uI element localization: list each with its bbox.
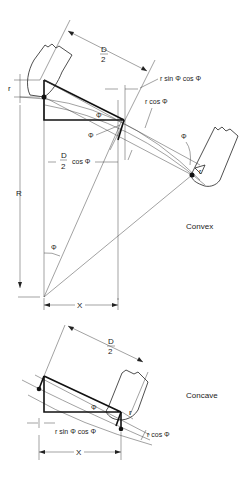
x-label: X (77, 301, 83, 310)
phi-right-label: Φ (181, 133, 187, 140)
phi-left-label: Φ (88, 132, 94, 139)
d2-extension-left (40, 20, 70, 80)
right-contact-point (190, 173, 195, 178)
d-cos-suffix-label: cos Φ (72, 158, 91, 165)
concave-r-label: r (129, 408, 132, 417)
concave-phi-label: Φ (91, 404, 97, 411)
concave-title: Concave (186, 391, 218, 400)
concave-left-contact (37, 387, 42, 392)
r-top-label: r (8, 84, 11, 93)
concave-two-label: 2 (108, 347, 113, 356)
left-cutter-outline (27, 44, 72, 97)
concave-arc-inner (28, 395, 152, 445)
concave-r-sin-cos-label: r sin Φ cos Φ (55, 428, 97, 435)
angled-radius-line (44, 118, 123, 297)
concave-d-label: D (108, 337, 114, 346)
convex-title: Convex (186, 222, 213, 231)
concave-diagram: D 2 Φ r r sin Φ cos Φ r cos Φ X Concave (22, 325, 218, 460)
d-cos-den-label: 2 (61, 162, 66, 171)
concave-triangle (44, 376, 121, 412)
concave-r-cos-label: r cos Φ (147, 431, 170, 438)
right-cutter-outline (191, 127, 238, 186)
d2-dimension-line (68, 31, 147, 71)
radius-label: R (16, 189, 22, 198)
concave-right-contact (119, 427, 124, 432)
r-cos-label: r cos Φ (145, 98, 168, 105)
left-contact-point (42, 95, 47, 100)
phi-triangle-label: Φ (96, 112, 102, 119)
geometry-diagram: D 2 r r sin Φ cos Φ r cos Φ Φ Φ Φ r (0, 0, 247, 482)
d-cos-num-label: D (61, 151, 67, 160)
phi-center-label: Φ (51, 244, 57, 251)
convex-diagram: D 2 r r sin Φ cos Φ r cos Φ Φ Φ Φ r (8, 20, 238, 310)
r-right-label: r (199, 168, 202, 175)
convex-arc (20, 97, 200, 180)
phi-center-arc (44, 253, 60, 256)
r-sin-cos-label: r sin Φ cos Φ (160, 75, 202, 82)
d-label: D (101, 45, 107, 54)
concave-x-label: X (76, 448, 82, 457)
two-label: 2 (101, 55, 106, 64)
d2-extension-right (110, 60, 155, 150)
convex-triangle (44, 80, 124, 120)
